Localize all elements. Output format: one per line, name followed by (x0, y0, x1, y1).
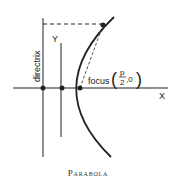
curve-point (101, 23, 106, 28)
focus-coord-rest: ,0 (126, 75, 133, 84)
focus-coord-denominator: 2 (120, 78, 125, 87)
focus-label: focus (88, 76, 110, 86)
focus-coord-numerator: p (120, 68, 125, 77)
focus-point (78, 86, 83, 91)
y-axis-label: Y (52, 34, 58, 44)
directrix-point (41, 86, 46, 91)
x-axis-label: X (159, 91, 165, 101)
focus-coord-close-paren: ) (136, 69, 142, 89)
directrix-label: directrix (32, 50, 42, 82)
focus-coord-open-paren: ( (111, 69, 117, 89)
figure-caption: Parabola (68, 168, 108, 178)
parabola-diagram: directrix Y X focus ( p 2 ,0 ) Parabola (0, 0, 177, 181)
vertex-point (60, 86, 65, 91)
